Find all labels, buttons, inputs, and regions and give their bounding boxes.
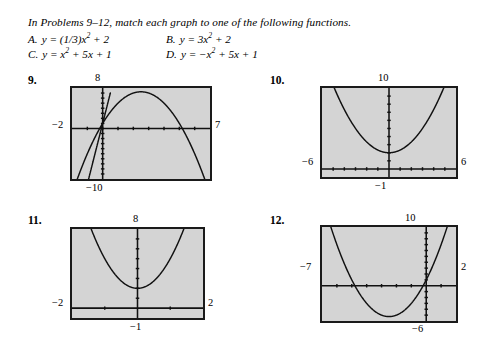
problem-number-10: 10.: [270, 74, 284, 86]
axis-label-ymin-11: −1: [130, 321, 141, 332]
graph-canvas-9: [72, 88, 210, 179]
graph-canvas-12: [322, 227, 456, 321]
axis-label-xmin-10: −6: [302, 156, 313, 167]
axis-label-xmax-10: 6: [461, 156, 466, 167]
axis-label-ymax-10: 10: [378, 72, 389, 83]
axis-label-xmin-9: −2: [52, 119, 63, 130]
graph-canvas-10: [322, 88, 456, 177]
axis-label-xmax-12: 2: [461, 261, 466, 272]
graph-screen-9: [70, 86, 212, 181]
problem-number-11: 11.: [28, 214, 42, 226]
axis-label-ymax-9: 8: [95, 72, 100, 83]
axis-label-xmin-12: −7: [300, 261, 311, 272]
problem-number-9: 9.: [28, 74, 37, 86]
graph-screen-12: [320, 225, 458, 323]
axis-label-ymax-12: 10: [405, 212, 416, 223]
axis-label-ymax-11: 8: [133, 213, 138, 224]
problem-number-12: 12.: [270, 214, 284, 226]
axis-label-ymin-9: −10: [86, 182, 102, 193]
graph-screen-11: [70, 227, 205, 320]
graph-screen-10: [320, 86, 458, 179]
axis-label-ymin-10: −1: [375, 180, 386, 191]
axis-label-xmin-11: −2: [52, 297, 63, 308]
problem-panel-9: 9. 8 −2 7 −10: [0, 0, 245, 130]
axis-label-xmax-11: 2: [208, 297, 213, 308]
axis-label-xmax-9: 7: [215, 119, 220, 130]
graph-canvas-11: [72, 229, 203, 318]
axis-label-ymin-12: −6: [412, 323, 423, 334]
